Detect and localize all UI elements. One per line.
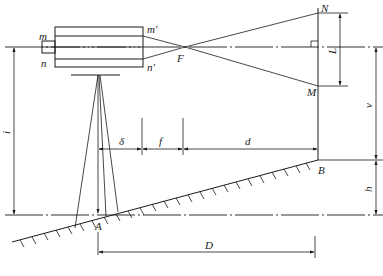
label-L: L	[326, 48, 338, 55]
label-A: A	[94, 220, 102, 232]
label-v: v	[362, 103, 374, 108]
label-delta: δ	[119, 135, 125, 147]
label-B: B	[318, 164, 325, 176]
tripod	[71, 75, 120, 228]
label-m-prime: m′	[147, 23, 158, 35]
label-n-prime: n′	[147, 61, 156, 73]
label-m: m	[39, 30, 47, 42]
label-F: F	[176, 52, 184, 64]
label-f: f	[159, 135, 164, 147]
label-h: h	[362, 186, 374, 192]
label-N: N	[320, 2, 329, 14]
label-M: M	[306, 86, 317, 98]
sloped-ground	[12, 160, 318, 247]
dimension-chain	[99, 118, 317, 155]
label-D: D	[204, 239, 213, 251]
leveling-rod	[311, 8, 348, 160]
label-n: n	[41, 57, 47, 69]
stadia-diagram: m n m′ n′ F N M L i v h δ f d D A B	[0, 0, 383, 276]
label-i: i	[0, 131, 12, 134]
label-d: d	[245, 135, 251, 147]
stadia-rays	[143, 13, 318, 86]
